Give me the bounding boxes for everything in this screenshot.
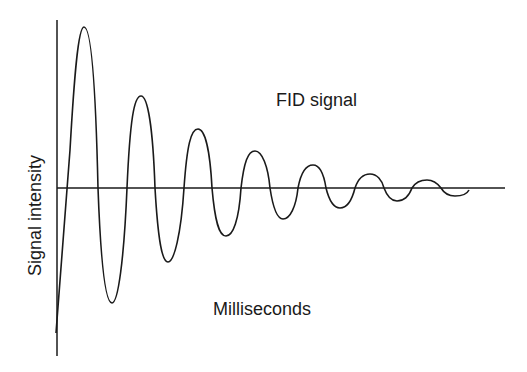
fid-chart: FID signal Milliseconds Signal intensity xyxy=(0,0,527,372)
x-axis-label: Milliseconds xyxy=(213,299,311,319)
y-axis-label: Signal intensity xyxy=(25,155,45,276)
fid-signal-curve xyxy=(56,27,469,333)
chart-title: FID signal xyxy=(276,90,357,110)
